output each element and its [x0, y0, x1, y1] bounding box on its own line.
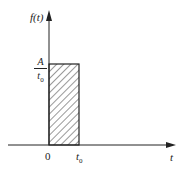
height-numerator: A	[34, 56, 47, 67]
x-axis-arrow-icon	[166, 142, 176, 148]
x-tick-t0: t0	[76, 151, 83, 165]
height-label: A t0	[34, 56, 47, 84]
pulse-diagram	[0, 0, 190, 170]
denominator-sub: 0	[40, 76, 44, 84]
fraction-bar	[34, 68, 47, 69]
y-axis-label: f(t)	[30, 12, 43, 23]
x-tick-zero: 0	[45, 151, 51, 162]
height-denominator: t0	[34, 70, 47, 84]
y-axis-arrow-icon	[46, 10, 52, 21]
tick-sub: 0	[79, 157, 83, 165]
x-axis-label: t	[170, 152, 173, 163]
hatched-pulse-region	[49, 64, 79, 145]
